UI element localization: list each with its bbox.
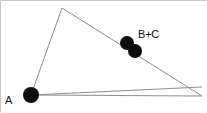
segment-left-edge: [31, 8, 62, 95]
figure-canvas: [0, 0, 207, 113]
segment-cevian-a-to-bc: [31, 87, 202, 95]
point-marker-c: [128, 44, 142, 58]
point-marker-a: [23, 87, 39, 103]
point-label-bc: B+C: [138, 29, 159, 40]
geometry-figure: A B+C: [0, 0, 207, 113]
segment-bottom-edge: [31, 95, 202, 96]
point-label-a: A: [5, 95, 12, 106]
